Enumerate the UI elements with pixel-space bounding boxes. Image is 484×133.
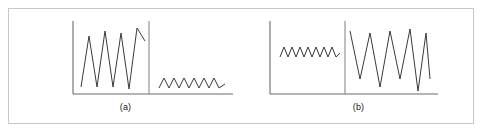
panel-b: (b) bbox=[242, 9, 475, 125]
panel-b-high-amplitude-signal bbox=[350, 29, 430, 91]
panel-b-caption: (b) bbox=[242, 102, 475, 113]
figure-frame: (a) (b) bbox=[8, 8, 474, 124]
panel-b-low-amplitude-signal bbox=[280, 47, 340, 57]
panel-a-caption: (a) bbox=[9, 102, 242, 113]
panel-a: (a) bbox=[9, 9, 242, 125]
panel-a-low-amplitude-signal bbox=[159, 78, 225, 88]
panel-a-high-amplitude-signal bbox=[81, 28, 145, 89]
figure-root: (a) (b) bbox=[0, 0, 484, 133]
